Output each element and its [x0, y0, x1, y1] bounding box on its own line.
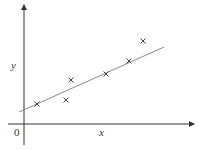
- y-axis-label: y: [11, 59, 16, 71]
- point-marker: [69, 78, 74, 83]
- point-marker: [35, 102, 40, 107]
- origin-label: 0: [14, 126, 20, 138]
- x-axis-label: x: [99, 126, 104, 138]
- point-marker: [64, 98, 69, 103]
- data-points: [35, 39, 146, 107]
- trend-line: [19, 47, 164, 112]
- point-marker: [141, 39, 146, 44]
